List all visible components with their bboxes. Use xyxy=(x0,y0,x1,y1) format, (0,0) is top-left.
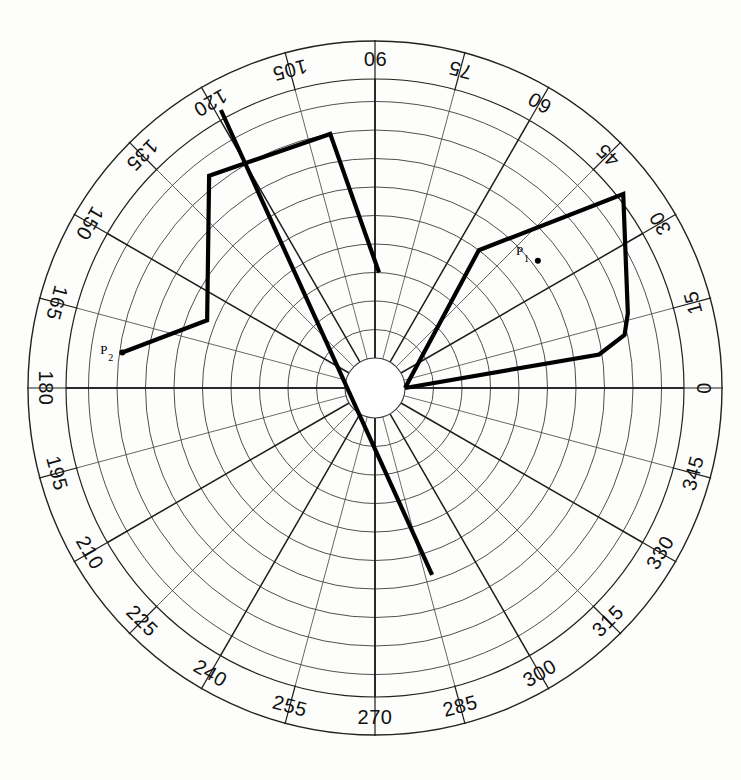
polar-chart-figure: 0153045607590105120135150165180195210225… xyxy=(0,0,741,780)
angle-label-0: 0 xyxy=(693,382,715,394)
major-spoke-330 xyxy=(401,403,643,543)
major-spoke-240 xyxy=(221,414,361,656)
minor-spoke-195 xyxy=(263,396,346,418)
angle-label-255: 255 xyxy=(270,691,309,721)
angle-label-270: 270 xyxy=(358,706,393,728)
p2-label: P xyxy=(100,342,107,357)
major-spoke-300 xyxy=(390,414,530,656)
angle-label-195: 195 xyxy=(42,453,72,492)
angle-label-75: 75 xyxy=(446,57,474,84)
mid-spoke-255 xyxy=(295,500,345,687)
mid-spoke-345 xyxy=(487,418,674,468)
p2-label-subscript: 2 xyxy=(108,352,113,363)
major-spoke-210 xyxy=(107,403,349,543)
angle-label-15: 15 xyxy=(679,289,706,317)
minor-spoke-345 xyxy=(404,396,487,418)
p1-label: P xyxy=(516,243,523,258)
mid-spoke-195 xyxy=(77,418,264,468)
angle-label-165: 165 xyxy=(42,283,72,322)
mid-spoke-45 xyxy=(457,170,594,307)
angle-label-30: 30 xyxy=(645,208,676,239)
mid-spoke-315 xyxy=(457,470,594,607)
mid-spoke-15 xyxy=(487,308,674,358)
p2-marker xyxy=(119,349,125,355)
angle-label-345: 345 xyxy=(678,453,708,492)
angle-label-180: 180 xyxy=(35,371,57,406)
major-spoke-150 xyxy=(107,234,349,374)
minor-spoke-105 xyxy=(345,276,367,359)
angle-label-105: 105 xyxy=(270,55,309,85)
p1-label-subscript: 1 xyxy=(524,253,529,264)
angle-label-285: 285 xyxy=(440,691,479,721)
p1-marker xyxy=(535,258,541,264)
trace-left xyxy=(122,134,379,353)
mid-spoke-105 xyxy=(295,90,345,277)
angle-label-60: 60 xyxy=(524,88,555,119)
mid-spoke-75 xyxy=(405,90,455,277)
polar-plot-canvas: 0153045607590105120135150165180195210225… xyxy=(0,0,741,780)
major-spoke-60 xyxy=(390,120,530,362)
mid-spoke-135 xyxy=(157,170,294,307)
mid-spoke-225 xyxy=(157,470,294,607)
angle-label-90: 90 xyxy=(363,48,386,70)
minor-spoke-75 xyxy=(383,276,405,359)
trace-diagonal xyxy=(221,110,432,575)
center-hole-circle xyxy=(345,358,405,418)
